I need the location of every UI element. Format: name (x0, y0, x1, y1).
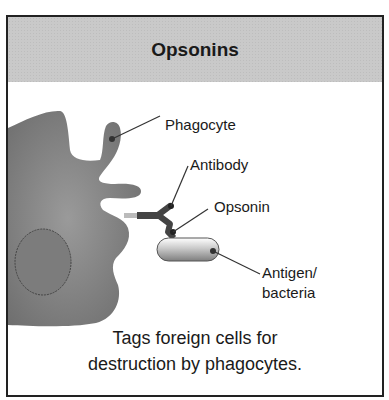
nucleus (15, 229, 71, 295)
bacteria (157, 238, 219, 261)
phagocyte-cell (8, 111, 141, 326)
caption-line-2: destruction by phagocytes. (6, 354, 384, 375)
label-opsonin: Opsonin (214, 198, 270, 215)
label-antibody: Antibody (190, 156, 248, 173)
label-phagocyte: Phagocyte (165, 116, 236, 133)
label-antigen: Antigen/ (262, 264, 317, 281)
caption-line-1: Tags foreign cells for (6, 328, 384, 349)
label-bacteria: bacteria (262, 284, 315, 301)
